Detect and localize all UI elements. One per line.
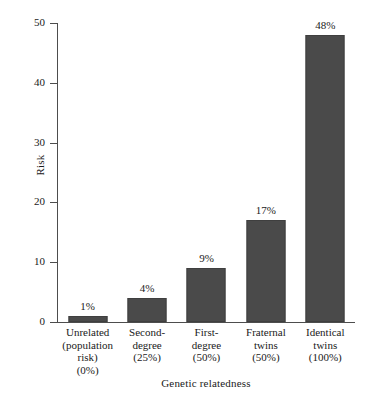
bar-value-label: 4% xyxy=(140,283,155,294)
y-axis-tick-mark xyxy=(50,262,57,263)
category-label-line: twins xyxy=(236,339,295,352)
y-axis-tick: 50 xyxy=(0,23,57,24)
x-axis-line xyxy=(57,322,355,323)
category-label-line: First- xyxy=(177,326,236,339)
category-label-line: (50%) xyxy=(236,351,295,364)
bar[interactable] xyxy=(128,298,167,322)
category-label-line: Unrelated xyxy=(58,326,117,339)
y-axis-tick-label: 20 xyxy=(19,196,45,207)
category-label-line: Fraternal xyxy=(236,326,295,339)
category-label-line: (50%) xyxy=(177,351,236,364)
category-label-line: (0%) xyxy=(58,364,117,377)
y-axis-tick-label: 40 xyxy=(19,77,45,88)
y-axis-tick: 10 xyxy=(0,262,57,263)
category-label: Identicaltwins(100%) xyxy=(296,326,355,364)
y-axis-tick-label: 30 xyxy=(19,137,45,148)
bar[interactable] xyxy=(246,220,285,322)
x-axis-title: Genetic relatedness xyxy=(57,377,355,389)
bar-group[interactable]: 4% xyxy=(117,23,176,322)
category-label: First-degree(50%) xyxy=(177,326,236,364)
y-axis-tick-mark xyxy=(50,23,57,24)
y-axis-tick: 20 xyxy=(0,202,57,203)
y-axis-tick-mark xyxy=(50,143,57,144)
bar-value-label: 9% xyxy=(199,253,214,264)
bar-value-label: 1% xyxy=(80,301,95,312)
y-axis-tick-mark xyxy=(50,322,57,323)
bar[interactable] xyxy=(187,268,226,322)
category-label-line: twins xyxy=(296,339,355,352)
category-label-line: degree xyxy=(177,339,236,352)
bar[interactable] xyxy=(306,35,345,322)
bar-chart: Risk 01020304050 1%4%9%17%48% Unrelated(… xyxy=(0,0,365,407)
bar[interactable] xyxy=(68,316,107,322)
y-axis-tick-mark xyxy=(50,83,57,84)
category-label-line: Identical xyxy=(296,326,355,339)
y-axis-tick-label: 0 xyxy=(19,316,45,327)
category-label: Unrelated(populationrisk)(0%) xyxy=(58,326,117,376)
bar-group[interactable]: 1% xyxy=(58,23,117,322)
bar-group[interactable]: 9% xyxy=(177,23,236,322)
category-label-line: Second- xyxy=(117,326,176,339)
y-axis-tick-label: 50 xyxy=(19,17,45,28)
bar-value-label: 48% xyxy=(315,20,335,31)
bar-group[interactable]: 48% xyxy=(296,23,355,322)
category-label-line: (25%) xyxy=(117,351,176,364)
y-axis-tick-mark xyxy=(50,202,57,203)
bar-value-label: 17% xyxy=(256,205,276,216)
bar-group[interactable]: 17% xyxy=(236,23,295,322)
category-label: Second-degree(25%) xyxy=(117,326,176,364)
category-label-line: (100%) xyxy=(296,351,355,364)
y-axis-tick: 40 xyxy=(0,83,57,84)
plot-area: 1%4%9%17%48% xyxy=(58,23,355,322)
category-label-line: (population xyxy=(58,339,117,352)
y-axis-tick-label: 10 xyxy=(19,256,45,267)
category-label: Fraternaltwins(50%) xyxy=(236,326,295,364)
y-axis-tick: 30 xyxy=(0,143,57,144)
category-label-line: degree xyxy=(117,339,176,352)
category-label-line: risk) xyxy=(58,351,117,364)
y-axis-tick: 0 xyxy=(0,322,57,323)
